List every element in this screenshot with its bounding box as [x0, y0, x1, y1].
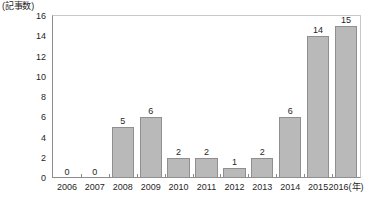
- bar[interactable]: [279, 117, 301, 178]
- y-tick-label: 10: [36, 72, 46, 81]
- bar-chart: (記事数) 0246810121416 0056221261415 200620…: [0, 0, 379, 200]
- x-tick-label: 2008: [109, 182, 137, 193]
- x-tick-label: 2007: [81, 182, 109, 193]
- y-tick-label: 0: [41, 174, 46, 183]
- bars-layer: 0056221261415: [53, 16, 360, 178]
- bar-slot: 15: [332, 16, 360, 178]
- y-tick-label: 4: [41, 133, 46, 142]
- x-tick-label: 2009: [137, 182, 165, 193]
- bar-value-label: 6: [137, 106, 165, 116]
- bar[interactable]: [251, 158, 273, 178]
- x-tick-label: 2013: [248, 182, 276, 193]
- bar-value-label: 14: [304, 25, 332, 35]
- bar-slot: 1: [220, 16, 248, 178]
- y-tick-label: 6: [41, 113, 46, 122]
- y-tick-label: 14: [36, 32, 46, 41]
- x-tick-label: 2010: [165, 182, 193, 193]
- bar[interactable]: [223, 168, 245, 178]
- bar-value-label: 1: [220, 157, 248, 167]
- bar-slot: 14: [304, 16, 332, 178]
- x-axis: 2006200720082009201020112012201320142015…: [53, 182, 360, 198]
- bar-slot: 2: [248, 16, 276, 178]
- bar[interactable]: [335, 26, 357, 178]
- x-tick-label: 2011: [193, 182, 221, 193]
- x-tick-label: 2006: [53, 182, 81, 193]
- bar[interactable]: [167, 158, 189, 178]
- y-tick-label: 2: [41, 153, 46, 162]
- bar-value-label: 2: [193, 147, 221, 157]
- bar[interactable]: [307, 36, 329, 178]
- bar[interactable]: [195, 158, 217, 178]
- bar-value-label: 5: [109, 116, 137, 126]
- bar[interactable]: [112, 127, 134, 178]
- bar-slot: 5: [109, 16, 137, 178]
- bar-slot: 6: [276, 16, 304, 178]
- x-axis-unit-caption: (年): [349, 182, 364, 192]
- y-axis: 0246810121416: [0, 0, 52, 200]
- x-tick-label: 2016(年): [323, 182, 369, 193]
- bar-value-label: 2: [248, 147, 276, 157]
- y-tick-label: 16: [36, 12, 46, 21]
- bar-slot: 2: [193, 16, 221, 178]
- bar-slot: 0: [81, 16, 109, 178]
- bar-slot: 0: [53, 16, 81, 178]
- bar-value-label: 15: [332, 15, 360, 25]
- bar-slot: 6: [137, 16, 165, 178]
- y-tick-label: 8: [41, 93, 46, 102]
- bar-value-label: 6: [276, 106, 304, 116]
- bar-value-label: 0: [81, 167, 109, 177]
- bar[interactable]: [140, 117, 162, 178]
- y-tick-label: 12: [36, 52, 46, 61]
- bar-value-label: 2: [165, 147, 193, 157]
- x-tick-label: 2012: [220, 182, 248, 193]
- bar-value-label: 0: [53, 167, 81, 177]
- x-tick-label: 2014: [276, 182, 304, 193]
- bar-slot: 2: [165, 16, 193, 178]
